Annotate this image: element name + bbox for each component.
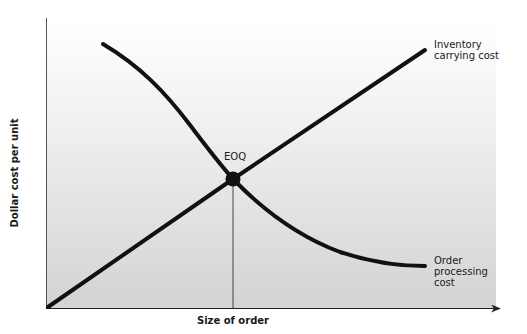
eoq-label: EOQ — [224, 151, 246, 162]
plot-area — [46, 18, 496, 308]
inventory-carrying-cost-label: Inventory carrying cost — [434, 39, 499, 61]
order-processing-cost-label: Order processing cost — [434, 255, 488, 288]
eoq-point — [226, 172, 241, 187]
x-axis-label: Size of order — [197, 315, 269, 326]
y-axis-label: Dollar cost per unit — [9, 98, 25, 248]
